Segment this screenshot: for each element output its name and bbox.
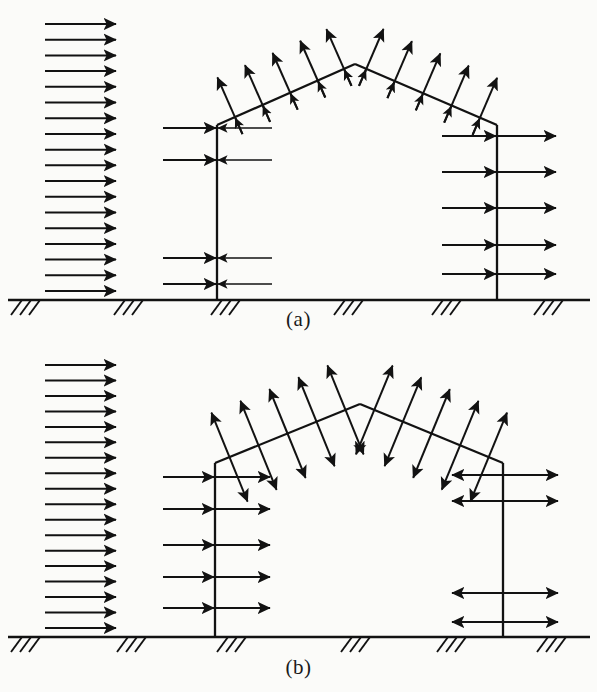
left-roof-load-arrow [346, 410, 364, 454]
panel-b-caption: (b) [0, 655, 597, 680]
left-roof-load-arrow-barb [235, 118, 242, 134]
left-roof-load-arrow [288, 434, 306, 478]
ground-hatch [226, 637, 237, 652]
right-roof-rafter [355, 64, 497, 125]
panel-a-caption: (a) [0, 307, 597, 332]
right-roof-load-arrow [460, 401, 478, 445]
ground-hatch [350, 637, 361, 652]
right-roof-load-arrow [442, 445, 460, 489]
ground-hatch [117, 637, 128, 652]
left-roof-load-arrow [230, 457, 248, 501]
left-roof-load-arrow [211, 413, 229, 457]
right-roof-load-arrow [470, 457, 488, 501]
right-roof-load-arrow-barb [416, 94, 423, 110]
ground-hatch [217, 637, 228, 652]
left-roof-load-arrow [298, 377, 316, 421]
ground-hatch [359, 637, 370, 652]
right-roof-load-arrow-barb [473, 119, 480, 135]
ground-hatch [537, 637, 548, 652]
figure-canvas: (a) (b) [0, 0, 597, 692]
ground-hatch [437, 637, 448, 652]
left-roof-load-arrow [269, 389, 287, 433]
ground-hatch [446, 637, 457, 652]
left-roof-load-arrow-barb [344, 70, 351, 86]
right-roof-load-arrow-barb [444, 107, 451, 123]
left-roof-rafter [217, 64, 355, 125]
left-roof-load-arrow-barb [291, 94, 298, 110]
left-roof-load-arrow [327, 365, 345, 409]
ground-hatch [11, 637, 22, 652]
right-roof-load-arrow [432, 389, 450, 433]
panel-a [8, 24, 590, 315]
right-roof-load-arrow [413, 434, 431, 478]
ground-hatch [20, 637, 31, 652]
right-roof-load-arrow [489, 413, 507, 457]
ground-hatch [546, 637, 557, 652]
left-roof-load-arrow [317, 422, 335, 466]
left-roof-load-arrow [259, 445, 277, 489]
ground-hatch [455, 637, 466, 652]
ground-hatch [555, 637, 566, 652]
right-roof-load-arrow-barb [359, 70, 366, 86]
right-roof-load-arrow [374, 366, 392, 410]
ground-hatch [29, 637, 40, 652]
wind-load-diagram [0, 0, 597, 692]
right-roof-load-arrow [356, 410, 374, 454]
ground-hatch [126, 637, 137, 652]
right-roof-load-arrow [403, 377, 421, 421]
left-roof-load-arrow-barb [263, 106, 270, 122]
ground-hatch [341, 637, 352, 652]
panel-b [8, 365, 590, 652]
right-roof-load-arrow-barb [387, 82, 394, 98]
ground-hatch [235, 637, 246, 652]
left-roof-load-arrow [240, 401, 258, 445]
left-roof-load-arrow-barb [318, 82, 325, 98]
ground-hatch [135, 637, 146, 652]
right-roof-load-arrow [385, 422, 403, 466]
